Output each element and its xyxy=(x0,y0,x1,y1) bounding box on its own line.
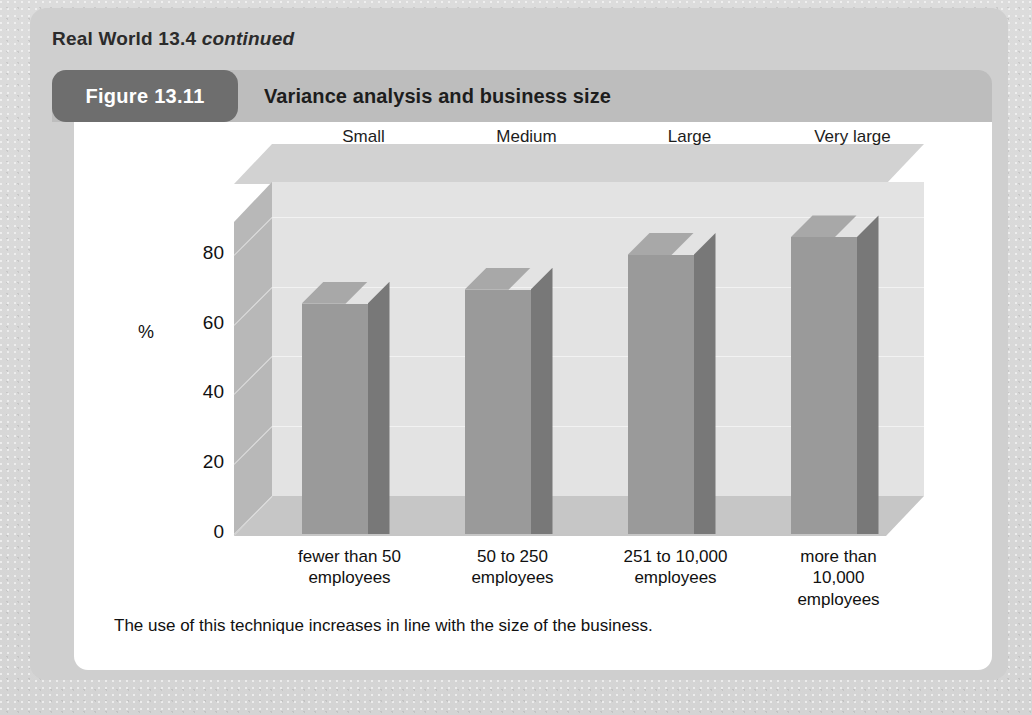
variance-analysis-bar-chart: % 020406080Smallfewer than 50employeesMe… xyxy=(74,122,992,670)
x-category-line-2-1: employees xyxy=(594,567,757,588)
y-tick-label-80: 80 xyxy=(170,242,224,264)
series-label-2: Large xyxy=(608,127,771,147)
bar-1 xyxy=(465,268,531,534)
x-category-line-3-0: more than xyxy=(757,546,920,567)
x-category-line-0-1: employees xyxy=(268,567,431,588)
bar-3 xyxy=(791,215,857,534)
figure-title: Variance analysis and business size xyxy=(264,70,611,122)
bar-side-0 xyxy=(368,282,390,534)
bar-front-0 xyxy=(302,304,368,534)
x-category-line-2-0: 251 to 10,000 xyxy=(594,546,757,567)
bar-top-1 xyxy=(465,268,531,290)
chart-top-wall xyxy=(234,144,924,184)
x-category-label-3: more than10,000employees xyxy=(757,546,920,610)
real-world-heading: Real World 13.4 continued xyxy=(52,28,294,50)
bar-0 xyxy=(302,282,368,534)
bar-side-3 xyxy=(857,215,879,534)
x-category-line-3-1: 10,000 xyxy=(757,567,920,588)
figure-number-label: Figure 13.11 xyxy=(85,85,204,108)
real-world-continued: continued xyxy=(202,28,295,49)
series-label-1: Medium xyxy=(445,127,608,147)
figure-card: % 020406080Smallfewer than 50employeesMe… xyxy=(74,122,992,670)
x-category-label-2: 251 to 10,000employees xyxy=(594,546,757,589)
bar-top-3 xyxy=(791,215,857,237)
y-tick-label-0: 0 xyxy=(170,521,224,543)
y-tick-label-20: 20 xyxy=(170,451,224,473)
bar-front-3 xyxy=(791,237,857,534)
bar-side-1 xyxy=(531,268,553,534)
x-category-line-1-0: 50 to 250 xyxy=(431,546,594,567)
x-category-line-3-2: employees xyxy=(757,589,920,610)
x-category-label-1: 50 to 250employees xyxy=(431,546,594,589)
figure-number-pill: Figure 13.11 xyxy=(52,70,238,122)
x-category-line-1-1: employees xyxy=(431,567,594,588)
x-category-label-0: fewer than 50employees xyxy=(268,546,431,589)
series-label-0: Small xyxy=(282,127,445,147)
real-world-panel: Real World 13.4 continued Figure 13.11 V… xyxy=(30,8,1008,680)
bar-2 xyxy=(628,233,694,534)
bar-top-0 xyxy=(302,282,368,304)
x-category-line-0-0: fewer than 50 xyxy=(268,546,431,567)
y-tick-label-40: 40 xyxy=(170,381,224,403)
y-axis-title: % xyxy=(138,322,154,343)
figure-note: The use of this technique increases in l… xyxy=(114,616,954,636)
y-tick-label-60: 60 xyxy=(170,312,224,334)
series-label-3: Very large xyxy=(771,127,934,147)
bar-top-2 xyxy=(628,233,694,255)
bar-front-1 xyxy=(465,290,531,534)
real-world-label: Real World 13.4 xyxy=(52,28,196,49)
bar-side-2 xyxy=(694,233,716,534)
figure-header-band: Figure 13.11 Variance analysis and busin… xyxy=(52,70,992,122)
bar-front-2 xyxy=(628,255,694,534)
